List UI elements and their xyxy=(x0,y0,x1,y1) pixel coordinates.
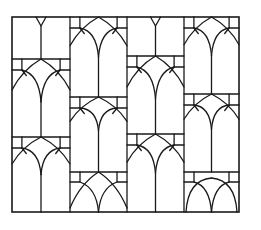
arch-cross-arc xyxy=(156,134,185,162)
corner-square xyxy=(60,137,70,148)
corner-square xyxy=(229,94,239,105)
corner-square xyxy=(184,94,194,105)
arch-cross-arc xyxy=(99,172,128,208)
pointed-arch-arc xyxy=(156,67,175,99)
corner-square xyxy=(12,59,22,70)
corner-square xyxy=(117,172,127,182)
corner-square xyxy=(184,172,194,182)
pointed-arch-arc xyxy=(137,67,156,99)
pointed-arch-arc xyxy=(41,70,60,102)
arch-cross-arc xyxy=(99,17,128,46)
corner-square xyxy=(70,17,80,28)
pointed-arch-arc xyxy=(22,70,41,102)
round-arch xyxy=(194,182,212,212)
arch-cross-arc xyxy=(184,94,212,119)
arch-cross-arc xyxy=(12,137,41,164)
arch-cross-arc xyxy=(184,17,212,45)
corner-square xyxy=(60,59,70,70)
corner-square xyxy=(70,97,80,108)
y-fork xyxy=(151,17,161,26)
corner-square xyxy=(70,172,80,182)
arch-cross-arc xyxy=(12,59,41,90)
outer-frame xyxy=(12,17,239,212)
arch-cross-arc xyxy=(70,17,99,46)
corner-square xyxy=(174,56,184,67)
corner-square xyxy=(127,56,137,67)
arch-cross-arc xyxy=(127,134,156,162)
y-fork xyxy=(36,17,46,26)
round-arch xyxy=(212,182,230,212)
arch-cross-arc xyxy=(212,94,240,119)
tracery-drawing xyxy=(0,0,261,230)
corner-square xyxy=(174,134,184,145)
arch-cross-arc xyxy=(41,59,70,90)
corner-square xyxy=(229,172,239,182)
arch-cross-arc xyxy=(41,137,70,164)
corner-square xyxy=(117,17,127,28)
arch-cross-arc xyxy=(212,17,240,45)
corner-square xyxy=(117,97,127,108)
arch-cross-arc xyxy=(70,172,99,208)
corner-square xyxy=(229,17,239,28)
corner-square xyxy=(127,134,137,145)
stained-glass-pattern xyxy=(0,0,261,230)
corner-square xyxy=(12,137,22,148)
corner-square xyxy=(184,17,194,28)
